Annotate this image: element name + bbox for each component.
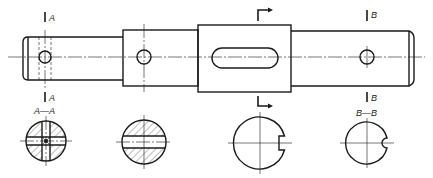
section-a-a: A—A — [20, 106, 72, 166]
middle-step — [123, 30, 198, 86]
section-middle — [116, 115, 172, 169]
section-letter-b-bottom: B — [371, 93, 377, 103]
cutting-plane-arrow-bottom — [258, 96, 273, 109]
section-letter-b-top: B — [371, 10, 377, 20]
cutting-plane-arrow-top — [258, 8, 273, 22]
keyway-slot — [212, 48, 278, 68]
section-b-b: B—B — [340, 108, 394, 168]
section-label-b-b: B—B — [356, 108, 377, 118]
section-letter-a-bottom: A — [48, 93, 55, 103]
main-view: A A B B — [8, 8, 425, 109]
section-label-a-a: A—A — [33, 106, 55, 116]
right-journal — [291, 31, 414, 86]
section-letter-a-top: A — [48, 13, 55, 23]
left-journal — [23, 37, 123, 80]
section-keyway — [228, 112, 292, 174]
shaft-drawing: A A B B A—A — [0, 0, 433, 178]
